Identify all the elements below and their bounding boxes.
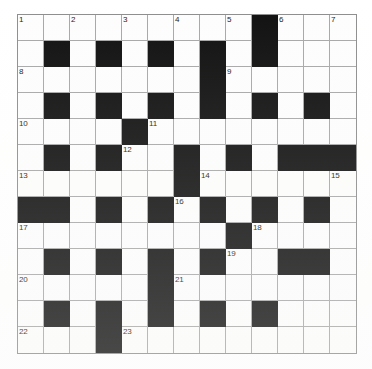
crossword-cell[interactable] xyxy=(70,41,96,67)
crossword-cell[interactable] xyxy=(70,223,96,249)
crossword-cell[interactable] xyxy=(70,197,96,223)
crossword-cell[interactable]: 6 xyxy=(278,15,304,41)
crossword-cell[interactable]: 18 xyxy=(252,223,278,249)
crossword-cell[interactable] xyxy=(278,327,304,353)
crossword-cell[interactable] xyxy=(96,67,122,93)
crossword-cell[interactable] xyxy=(174,41,200,67)
crossword-cell[interactable] xyxy=(70,145,96,171)
crossword-cell[interactable] xyxy=(70,119,96,145)
crossword-cell[interactable] xyxy=(304,223,330,249)
crossword-cell[interactable] xyxy=(148,15,174,41)
crossword-cell[interactable] xyxy=(278,301,304,327)
crossword-cell[interactable] xyxy=(122,41,148,67)
crossword-cell[interactable] xyxy=(18,145,44,171)
crossword-cell[interactable] xyxy=(174,67,200,93)
crossword-cell[interactable] xyxy=(330,197,356,223)
crossword-cell[interactable] xyxy=(70,301,96,327)
crossword-cell[interactable]: 5 xyxy=(226,15,252,41)
crossword-cell[interactable]: 15 xyxy=(330,171,356,197)
crossword-cell[interactable] xyxy=(200,223,226,249)
crossword-cell[interactable] xyxy=(226,171,252,197)
crossword-cell[interactable] xyxy=(304,119,330,145)
crossword-cell[interactable] xyxy=(252,275,278,301)
crossword-cell[interactable] xyxy=(278,223,304,249)
crossword-cell[interactable] xyxy=(122,275,148,301)
crossword-cell[interactable] xyxy=(44,67,70,93)
crossword-cell[interactable] xyxy=(304,15,330,41)
crossword-cell[interactable] xyxy=(304,41,330,67)
crossword-cell[interactable] xyxy=(226,275,252,301)
crossword-cell[interactable] xyxy=(330,249,356,275)
crossword-cell[interactable] xyxy=(278,119,304,145)
crossword-cell[interactable] xyxy=(122,67,148,93)
crossword-cell[interactable] xyxy=(96,119,122,145)
crossword-cell[interactable] xyxy=(252,67,278,93)
crossword-cell[interactable] xyxy=(278,93,304,119)
crossword-cell[interactable] xyxy=(18,41,44,67)
crossword-cell[interactable] xyxy=(226,197,252,223)
crossword-cell[interactable] xyxy=(44,275,70,301)
crossword-cell[interactable]: 13 xyxy=(18,171,44,197)
crossword-cell[interactable] xyxy=(252,327,278,353)
crossword-cell[interactable] xyxy=(122,301,148,327)
crossword-cell[interactable] xyxy=(148,223,174,249)
crossword-cell[interactable] xyxy=(174,223,200,249)
crossword-cell[interactable] xyxy=(252,171,278,197)
crossword-cell[interactable] xyxy=(330,301,356,327)
crossword-cell[interactable]: 21 xyxy=(174,275,200,301)
crossword-cell[interactable]: 14 xyxy=(200,171,226,197)
crossword-cell[interactable] xyxy=(200,327,226,353)
crossword-cell[interactable] xyxy=(70,327,96,353)
crossword-cell[interactable] xyxy=(330,223,356,249)
crossword-cell[interactable] xyxy=(122,223,148,249)
crossword-cell[interactable]: 8 xyxy=(18,67,44,93)
crossword-cell[interactable] xyxy=(18,301,44,327)
crossword-cell[interactable] xyxy=(96,15,122,41)
crossword-cell[interactable] xyxy=(148,171,174,197)
crossword-cell[interactable] xyxy=(44,327,70,353)
crossword-cell[interactable] xyxy=(278,275,304,301)
crossword-cell[interactable]: 10 xyxy=(18,119,44,145)
crossword-cell[interactable] xyxy=(278,41,304,67)
crossword-cell[interactable] xyxy=(226,301,252,327)
crossword-cell[interactable] xyxy=(174,301,200,327)
crossword-cell[interactable]: 3 xyxy=(122,15,148,41)
crossword-cell[interactable]: 4 xyxy=(174,15,200,41)
crossword-cell[interactable] xyxy=(122,171,148,197)
crossword-cell[interactable] xyxy=(304,301,330,327)
crossword-cell[interactable] xyxy=(304,171,330,197)
crossword-cell[interactable]: 2 xyxy=(70,15,96,41)
crossword-cell[interactable] xyxy=(330,93,356,119)
crossword-cell[interactable] xyxy=(44,15,70,41)
crossword-cell[interactable]: 16 xyxy=(174,197,200,223)
crossword-cell[interactable] xyxy=(330,67,356,93)
crossword-cell[interactable] xyxy=(148,145,174,171)
crossword-cell[interactable] xyxy=(200,119,226,145)
crossword-cell[interactable] xyxy=(96,171,122,197)
crossword-cell[interactable] xyxy=(200,275,226,301)
crossword-cell[interactable] xyxy=(304,67,330,93)
crossword-cell[interactable] xyxy=(148,327,174,353)
crossword-cell[interactable] xyxy=(330,119,356,145)
crossword-cell[interactable] xyxy=(18,249,44,275)
crossword-cell[interactable] xyxy=(70,67,96,93)
crossword-cell[interactable] xyxy=(252,119,278,145)
crossword-cell[interactable]: 1 xyxy=(18,15,44,41)
crossword-cell[interactable] xyxy=(330,327,356,353)
crossword-cell[interactable] xyxy=(44,223,70,249)
crossword-cell[interactable]: 12 xyxy=(122,145,148,171)
crossword-cell[interactable] xyxy=(304,275,330,301)
crossword-cell[interactable] xyxy=(96,223,122,249)
crossword-cell[interactable] xyxy=(70,93,96,119)
crossword-cell[interactable] xyxy=(174,93,200,119)
crossword-cell[interactable] xyxy=(226,327,252,353)
crossword-cell[interactable] xyxy=(70,171,96,197)
crossword-cell[interactable]: 23 xyxy=(122,327,148,353)
crossword-cell[interactable] xyxy=(200,15,226,41)
crossword-cell[interactable]: 11 xyxy=(148,119,174,145)
crossword-cell[interactable]: 20 xyxy=(18,275,44,301)
crossword-cell[interactable]: 19 xyxy=(226,249,252,275)
crossword-cell[interactable] xyxy=(252,145,278,171)
crossword-cell[interactable] xyxy=(70,275,96,301)
crossword-cell[interactable] xyxy=(226,41,252,67)
